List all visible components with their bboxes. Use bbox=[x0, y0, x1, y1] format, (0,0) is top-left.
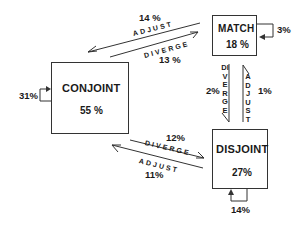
diagram-lines bbox=[0, 0, 306, 226]
node-disjoint-label: DISJOINT bbox=[216, 143, 268, 155]
node-match-label: MATCH bbox=[218, 23, 254, 34]
edge-match-to-disjoint-percent: 2% bbox=[206, 85, 220, 96]
node-conjoint-percent: 55 % bbox=[80, 105, 103, 116]
node-disjoint: DISJOINT 27% bbox=[212, 129, 268, 189]
self-loop-conjoint bbox=[40, 89, 51, 101]
self-loop-match-label: 3% bbox=[277, 24, 291, 35]
edge-match-to-conjoint-percent: 14 % bbox=[139, 12, 161, 23]
edge-conjoint-to-match-percent: 13 % bbox=[159, 54, 181, 65]
node-disjoint-percent: 27% bbox=[232, 167, 252, 178]
node-match: MATCH 18 % bbox=[212, 15, 257, 56]
state-transition-diagram: CONJOINT 55 % MATCH 18 % DISJOINT 27% 31… bbox=[0, 0, 306, 226]
self-loop-disjoint-label: 14% bbox=[231, 204, 250, 215]
node-conjoint-label: CONJOINT bbox=[62, 82, 120, 94]
edge-disjoint-to-match-action: ADJUST bbox=[244, 73, 252, 124]
node-match-percent: 18 % bbox=[226, 39, 249, 50]
edge-conjoint-to-disjoint-percent: 12% bbox=[166, 132, 185, 143]
self-loop-conjoint-label: 31% bbox=[19, 90, 38, 101]
node-conjoint: CONJOINT 55 % bbox=[51, 62, 129, 134]
edge-match-to-disjoint-action: DIVERGE bbox=[221, 64, 229, 115]
edge-disjoint-to-match-percent: 1% bbox=[258, 85, 272, 96]
edge-disjoint-to-conjoint-percent: 11% bbox=[145, 169, 164, 180]
